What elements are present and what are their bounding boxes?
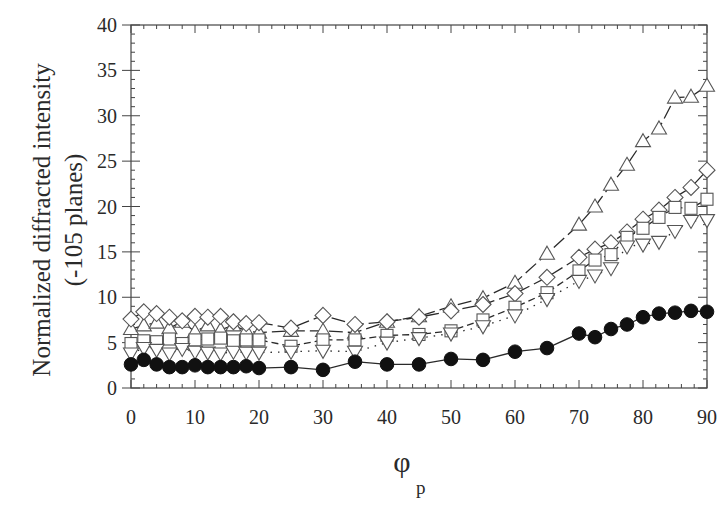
data-point-square [349,334,361,346]
y-tick-label: 35 [97,59,117,81]
data-point-triangle-up [700,78,715,91]
data-point-circle [620,318,634,332]
data-point-triangle-up [604,177,619,190]
data-point-circle [252,361,266,375]
data-point-triangle-down [620,241,635,254]
data-point-square [253,334,265,346]
data-point-triangle-down [540,294,555,307]
y-tick-label: 25 [97,150,117,172]
data-point-triangle-down [476,321,491,334]
data-point-circle [444,352,458,366]
data-point-square [605,249,617,261]
x-tick-label: 40 [377,406,397,428]
data-point-circle [239,359,253,373]
x-tick-label: 10 [185,406,205,428]
data-point-triangle-down [604,263,619,276]
y-tick-label: 10 [97,286,117,308]
data-point-square [227,335,239,347]
data-point-circle [588,330,602,344]
x-tick-label: 0 [126,406,136,428]
data-point-circle [124,358,138,372]
data-point-circle [572,327,586,341]
data-point-diamond [149,306,165,322]
data-point-triangle-down [668,226,683,239]
data-point-circle [137,353,151,367]
data-point-circle [652,307,666,321]
data-point-square [317,334,329,346]
data-point-circle [668,306,682,320]
series-line [131,86,707,333]
x-tick-label: 90 [697,406,717,428]
data-point-triangle-up [588,199,603,212]
series-line [131,170,707,328]
data-point-circle [163,360,177,374]
x-tick-label: 80 [633,406,653,428]
data-point-triangle-down [572,275,587,288]
y-tick-label: 5 [107,332,117,354]
data-point-square [669,201,681,213]
data-point-circle [188,359,202,373]
data-point-triangle-down [252,347,267,360]
data-point-triangle-down [588,270,603,283]
data-point-circle [348,355,362,369]
data-point-triangle-down [316,345,331,358]
data-point-diamond [411,309,427,325]
data-point-circle [214,360,228,374]
data-point-diamond [123,311,139,327]
data-point-circle [476,353,490,367]
data-point-triangle-down [226,346,241,359]
x-axis-title-subscript: p [416,477,426,498]
data-point-triangle-up [620,157,635,170]
data-point-diamond [539,269,555,285]
data-point-circle [150,358,164,372]
data-point-square [637,222,649,234]
data-point-square [215,332,227,344]
data-point-circle [412,358,426,372]
y-tick-label: 0 [107,377,117,399]
data-point-circle [227,360,241,374]
y-axis-subtitle: (-105 planes) [60,154,88,287]
y-axis-title-line2: (-105 planes) [60,154,88,287]
data-point-triangle-down [213,348,228,361]
data-point-triangle-down [652,236,667,249]
data-point-diamond [443,303,459,319]
data-point-diamond [475,297,491,313]
y-axis-title-line1: Normalized diffracted intensity [28,63,55,377]
data-point-circle [684,304,698,318]
data-point-circle [604,322,618,336]
data-point-circle [540,341,554,355]
y-axis-title: Normalized diffracted intensity [28,63,55,377]
data-point-circle [636,310,650,324]
x-tick-label: 20 [249,406,269,428]
data-point-triangle-down [149,344,164,357]
data-series [123,78,715,376]
x-axis-title-symbol: φ [393,445,410,478]
data-point-triangle-down [162,348,177,361]
x-axis-title: φ p [393,445,425,498]
y-tick-label: 30 [97,105,117,127]
data-point-triangle-down [700,215,715,228]
data-point-square [685,202,697,214]
data-point-square [163,333,175,345]
data-point-square [189,334,201,346]
data-point-triangle-up [540,246,555,259]
x-tick-label: 30 [313,406,333,428]
data-point-circle [700,305,714,319]
data-point-circle [175,360,189,374]
data-point-triangle-down [684,216,699,229]
data-point-triangle-up [668,90,683,103]
data-point-diamond [315,307,331,323]
data-point-triangle-down [508,310,523,323]
x-tick-label: 70 [569,406,589,428]
data-point-triangle-down [239,347,254,360]
data-point-diamond [136,304,152,320]
y-tick-label: 40 [97,14,117,36]
data-point-square [589,254,601,266]
data-point-square [202,333,214,345]
chart: 0102030405060708090 0510152025303540 Nor… [0,0,726,515]
data-point-diamond [251,315,267,331]
data-point-circle [284,360,298,374]
data-point-circle [508,345,522,359]
y-tick-label: 20 [97,196,117,218]
data-point-triangle-up [636,134,651,147]
